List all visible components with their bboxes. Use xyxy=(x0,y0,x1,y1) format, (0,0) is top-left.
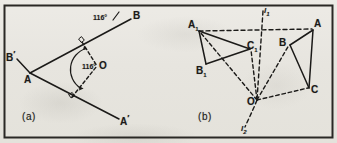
panel-a-exterior-angle-tick xyxy=(113,12,119,20)
panel-b-group xyxy=(199,11,313,127)
label-c1-sub: 1 xyxy=(254,47,257,53)
figure-root: B B′ A A′ O 116° 116° (a) A1 B1 C1 A B C… xyxy=(0,0,337,143)
label-point-a-panel-a: A xyxy=(24,75,31,85)
caption-panel-b: (b) xyxy=(198,112,212,122)
label-axis-l1: l1 xyxy=(264,7,270,17)
label-point-c1-panel-b: C1 xyxy=(247,41,258,53)
panel-b-axis-l1 xyxy=(257,11,263,100)
label-angle-interior-panel-a: 116° xyxy=(82,63,96,70)
label-a1-sub: 1 xyxy=(195,26,198,32)
label-l2-sub: 2 xyxy=(243,129,246,135)
panel-b-seg-b1-c1 xyxy=(206,49,250,64)
panel-b-seg-a-c xyxy=(309,30,313,88)
label-point-b-panel-a: B xyxy=(133,11,140,21)
panel-b-dashed-a1-a xyxy=(199,29,312,31)
panel-a-ray-a-bprime xyxy=(17,59,30,73)
label-point-b-prime-panel-a: B′ xyxy=(6,50,15,63)
figure-border xyxy=(5,6,333,138)
label-point-a-prime-panel-a: A′ xyxy=(120,114,129,127)
label-point-c-panel-b: C xyxy=(311,85,318,95)
label-b1-sub: 1 xyxy=(203,72,206,78)
panel-a-ray-ab xyxy=(30,19,131,73)
panel-b-seg-b-c xyxy=(290,45,309,88)
panel-b-dashed-o-c1 xyxy=(251,50,257,100)
label-axis-l2: l2 xyxy=(241,125,247,135)
label-b-prime-mark: ′ xyxy=(13,49,15,59)
label-a-prime-mark: ′ xyxy=(127,113,129,123)
label-point-b1-panel-b: B1 xyxy=(196,66,207,78)
label-angle-exterior-panel-a: 116° xyxy=(93,14,107,21)
label-point-a-panel-b: A xyxy=(314,19,321,29)
panel-a-perp-lower xyxy=(72,66,97,97)
label-point-o-panel-a: O xyxy=(99,61,107,71)
label-point-o-panel-b: O xyxy=(247,97,255,107)
panel-b-dashed-o-b xyxy=(257,45,289,100)
label-point-a1-panel-b: A1 xyxy=(188,20,199,32)
panel-a-group xyxy=(17,12,131,119)
label-point-b-panel-b: B xyxy=(279,38,286,48)
caption-panel-a: (a) xyxy=(22,112,36,122)
figure-drawing xyxy=(0,0,337,143)
panel-b-dashed-o-c xyxy=(257,88,308,100)
panel-b-seg-a-b xyxy=(290,30,313,45)
label-l1-sub: 1 xyxy=(266,11,269,17)
